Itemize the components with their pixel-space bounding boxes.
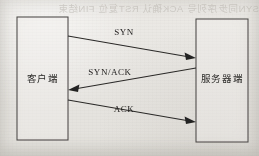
server-label: 服务器端 [201, 73, 243, 84]
message-syn-ack: SYN/ACK [68, 67, 196, 92]
tcp-handshake-diagram: 客户端 服务器端 SYN SYN/ACK [0, 0, 259, 156]
node-client: 客户端 [17, 17, 68, 140]
syn-arrow-line [68, 36, 191, 57]
syn-arrow-head [185, 53, 196, 60]
client-label: 客户端 [27, 73, 59, 84]
syn-label: SYN [114, 27, 134, 37]
scanned-page: SYN同步序列号 ACK确认 RST复位 FIN结束 客户端 服务器端 [0, 0, 259, 156]
ack-label: ACK [114, 104, 135, 114]
syn-ack-arrow-head [68, 85, 79, 92]
message-ack: ACK [68, 100, 196, 124]
message-syn: SYN [68, 27, 196, 60]
ack-arrow-head [185, 117, 196, 124]
node-server: 服务器端 [196, 19, 248, 142]
syn-ack-label: SYN/ACK [88, 67, 131, 77]
